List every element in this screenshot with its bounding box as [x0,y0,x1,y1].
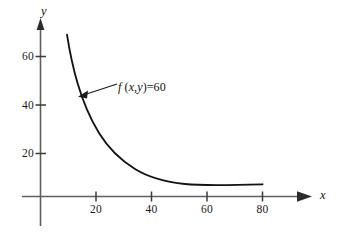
chart-figure: 60 40 20 20 40 60 80 y x f (x,y)=60 [0,0,341,236]
x-tick-label-20: 20 [83,203,109,215]
x-tick-label-40: 40 [139,203,165,215]
y-axis-arrowhead [37,18,45,30]
isoquant-curve [67,35,263,186]
annotation-leader-line [84,84,118,95]
y-axis-label: y [41,4,47,19]
chart-canvas [0,0,341,236]
y-tick-label-40: 40 [14,99,34,111]
isoquant-annotation-label: f (x,y)=60 [118,80,166,95]
y-tick-label-20: 20 [14,147,34,159]
annotation-value: 60 [154,80,166,94]
x-axis-arrowhead [297,191,312,201]
x-axis-label: x [320,188,326,203]
x-tick-label-80: 80 [250,203,276,215]
y-tick-label-60: 60 [14,50,34,62]
x-tick-label-60: 60 [194,203,220,215]
annotation-open-paren: ( [121,80,128,94]
annotation-equals: = [147,80,154,94]
